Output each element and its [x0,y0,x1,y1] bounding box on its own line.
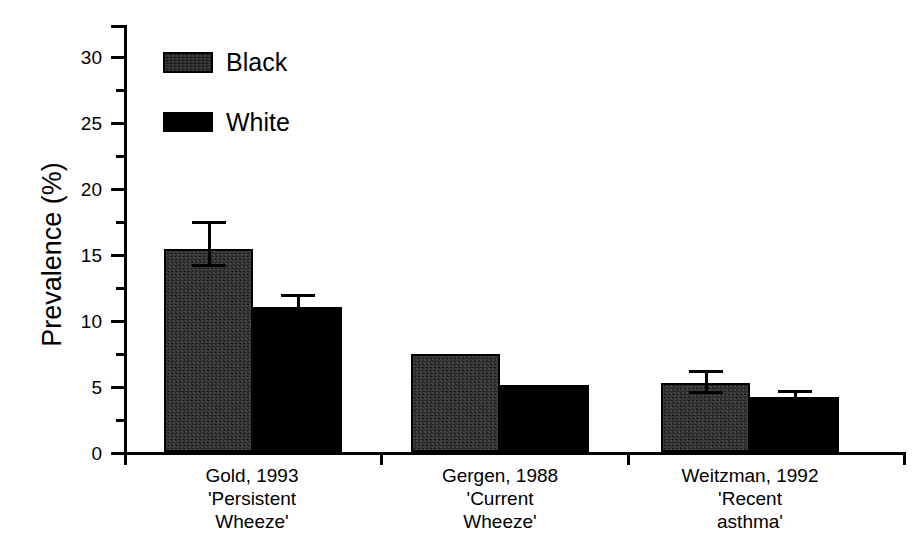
y-axis-tick-label: 15 [62,246,102,265]
bar-black-group-3 [661,383,750,452]
y-axis-major-tick [111,188,124,191]
y-axis-major-tick [111,320,124,323]
y-axis-tick-label: 25 [62,114,102,133]
y-axis-minor-tick [116,419,124,422]
error-bar-cap-upper [192,221,226,224]
y-axis-minor-tick [116,89,124,92]
bar-chart-figure: Prevalence (%) 051015202530 Black White … [0,0,919,558]
y-axis-tick-label: 5 [62,378,102,397]
y-axis-tick-label: 10 [62,312,102,331]
y-axis-tick-label: 30 [62,48,102,67]
x-axis-category-label-3: Weitzman, 1992 'Recent asthma' [620,464,880,533]
error-bar-stem [705,370,708,390]
x-axis-group-tick [903,452,906,465]
error-bar-cap-upper [689,370,723,373]
error-bar-cap-lower [281,314,315,317]
bar-black-group-2 [411,354,500,452]
legend-label-black: Black [226,50,287,75]
bar-white-group-2 [500,385,589,452]
y-axis-major-tick [111,452,124,455]
error-bar-stem [208,221,211,264]
legend-label-white: White [226,110,290,135]
y-axis-minor-tick [116,155,124,158]
y-axis-top-tick [111,25,124,28]
x-axis-category-label-1: Gold, 1993 'Persistent Wheeze' [122,464,382,533]
y-axis-major-tick [111,122,124,125]
y-axis-minor-tick [116,287,124,290]
error-bar-stem [297,294,300,314]
y-axis-major-tick [111,386,124,389]
legend-swatch-white-icon [163,112,213,132]
y-axis-tick-label: 0 [62,444,102,463]
y-axis-minor-tick [116,221,124,224]
bar-white-group-1 [253,307,342,452]
y-axis-major-tick [111,56,124,59]
y-axis-line [124,25,127,455]
y-axis-minor-tick [116,353,124,356]
legend-swatch-black-icon [163,52,213,73]
bar-white-group-3 [750,397,839,452]
y-axis-major-tick [111,254,124,257]
error-bar-cap-lower [689,391,723,394]
error-bar-cap-upper [281,294,315,297]
x-axis-line [124,452,905,455]
bar-black-group-1 [164,249,253,452]
y-axis-tick-label: 20 [62,180,102,199]
error-bar-cap-lower [778,400,812,403]
error-bar-cap-lower [192,264,226,267]
x-axis-category-label-2: Gergen, 1988 'Current Wheeze' [370,464,630,533]
error-bar-cap-upper [778,390,812,393]
